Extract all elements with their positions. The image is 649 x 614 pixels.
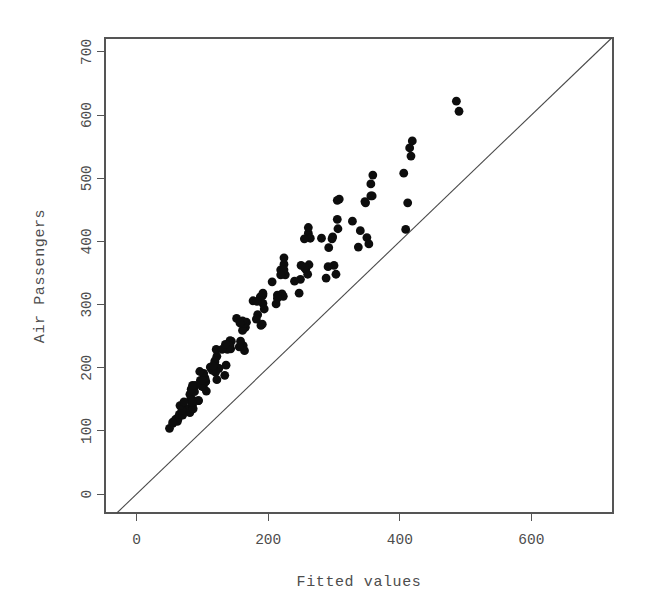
data-point <box>356 226 365 235</box>
data-point <box>180 397 189 406</box>
data-point <box>188 381 197 390</box>
data-point <box>324 262 333 271</box>
data-point <box>235 318 244 327</box>
data-point <box>364 240 373 249</box>
data-point <box>195 367 204 376</box>
data-point <box>220 371 229 380</box>
data-point <box>452 97 461 106</box>
y-tick-label: 700 <box>79 39 95 65</box>
data-point <box>222 361 231 370</box>
y-tick-label: 100 <box>79 418 95 444</box>
data-point <box>273 294 282 303</box>
data-point <box>297 261 306 270</box>
data-point <box>322 274 331 283</box>
data-point <box>328 233 337 242</box>
data-point <box>335 195 344 204</box>
data-point <box>361 198 370 207</box>
y-tick-label: 400 <box>79 228 95 254</box>
data-point <box>268 277 277 286</box>
data-point <box>317 234 326 243</box>
plot-canvas: 0100200300400500600700 0200400600 Air Pa… <box>0 0 649 614</box>
data-point <box>221 340 230 349</box>
data-point <box>401 225 410 234</box>
data-point <box>290 277 299 286</box>
data-point <box>300 234 309 243</box>
x-axis-ticks: 0200400600 <box>132 513 544 548</box>
data-point <box>455 107 464 116</box>
data-point <box>168 418 177 427</box>
data-point <box>253 297 262 306</box>
x-tick-label: 0 <box>132 532 141 548</box>
x-tick-label: 400 <box>387 532 413 548</box>
data-point <box>399 169 408 178</box>
data-point <box>209 361 218 370</box>
y-tick-label: 500 <box>79 165 95 191</box>
data-point <box>280 253 289 262</box>
scatter-plot-figure: 0100200300400500600700 0200400600 Air Pa… <box>0 0 649 614</box>
data-point <box>252 315 261 324</box>
data-point <box>348 217 357 226</box>
data-point <box>212 375 221 384</box>
identity-line <box>117 38 612 513</box>
x-axis-title: Fitted values <box>297 574 422 591</box>
data-point <box>403 198 412 207</box>
data-point <box>235 342 244 351</box>
data-point <box>354 243 363 252</box>
scatter-points-layer <box>165 97 463 433</box>
x-tick-label: 600 <box>518 532 544 548</box>
data-point <box>198 376 207 385</box>
data-point <box>295 289 304 298</box>
data-point <box>366 180 375 189</box>
y-tick-label: 300 <box>79 292 95 318</box>
data-point <box>368 192 377 201</box>
data-point <box>334 224 343 233</box>
data-point <box>332 270 341 279</box>
x-tick-label: 200 <box>255 532 281 548</box>
data-point <box>304 223 313 232</box>
data-point <box>407 152 416 161</box>
data-point <box>276 270 285 279</box>
y-axis-ticks: 0100200300400500600700 <box>79 39 105 499</box>
y-axis-title: Air Passengers <box>32 209 49 343</box>
y-tick-label: 600 <box>79 102 95 128</box>
data-point <box>408 137 417 146</box>
data-point <box>333 215 342 224</box>
data-point <box>324 243 333 252</box>
data-point <box>259 289 268 298</box>
identity-reference-line <box>117 38 612 513</box>
data-point <box>368 171 377 180</box>
y-tick-label: 0 <box>79 490 95 499</box>
y-tick-label: 200 <box>79 355 95 381</box>
